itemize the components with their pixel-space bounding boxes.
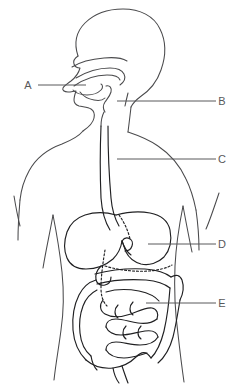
- diagram-page: A B C D E: [0, 0, 236, 387]
- digestive-system-diagram: A B C D E: [0, 0, 236, 387]
- label-b: B: [218, 95, 225, 107]
- label-e: E: [218, 297, 225, 309]
- label-a: A: [24, 79, 32, 91]
- label-d: D: [218, 238, 226, 250]
- label-c: C: [218, 153, 226, 165]
